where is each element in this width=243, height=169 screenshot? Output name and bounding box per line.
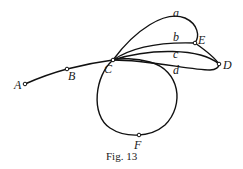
label-C: C: [104, 62, 113, 76]
node-F: [137, 133, 141, 137]
edge-c: [113, 51, 219, 64]
node-E: [193, 41, 197, 45]
label-B: B: [68, 69, 76, 83]
label-edge-b: b: [173, 30, 179, 44]
graph-diagram: A B C E D F a b c d Fig. 13: [0, 0, 243, 169]
label-edge-d: d: [173, 63, 180, 77]
label-edge-c: c: [173, 47, 179, 61]
label-D: D: [222, 58, 232, 72]
label-E: E: [197, 33, 206, 47]
node-A: [23, 82, 27, 86]
label-edge-a: a: [173, 6, 179, 20]
label-A: A: [13, 78, 22, 92]
node-D: [217, 62, 221, 66]
edge-d: [113, 60, 219, 70]
edge-A-B: [25, 69, 67, 84]
figure-caption: Fig. 13: [106, 150, 138, 162]
